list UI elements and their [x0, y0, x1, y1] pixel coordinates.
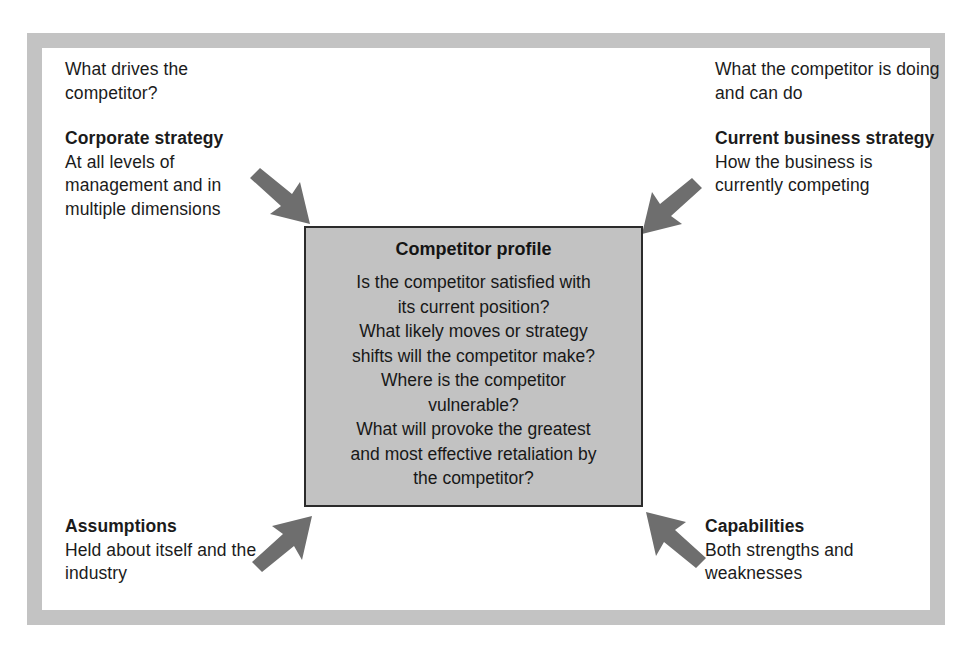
quadrant-bottom-right-detail: Both strengths and weaknesses — [705, 539, 935, 586]
profile-question-line: What will provoke the greatest — [316, 417, 631, 442]
profile-question-line: Is the competitor satisfied with — [316, 270, 631, 295]
quadrant-top-right: What the competitor is doing and can do … — [715, 58, 940, 198]
quadrant-top-left-lead: What drives the competitor? — [65, 58, 280, 105]
profile-question-line: What likely moves or strategy — [316, 319, 631, 344]
quadrant-top-right-detail: How the business is currently competing — [715, 151, 940, 198]
quadrant-top-right-heading: Current business strategy — [715, 127, 940, 151]
competitor-profile-questions: Is the competitor satisfied with its cur… — [316, 270, 631, 491]
profile-question-line: shifts will the competitor make? — [316, 344, 631, 369]
quadrant-bottom-right-heading: Capabilities — [705, 515, 935, 539]
quadrant-bottom-left: Assumptions Held about itself and the in… — [65, 515, 295, 586]
quadrant-bottom-left-detail: Held about itself and the industry — [65, 539, 295, 586]
profile-question-line: its current position? — [316, 295, 631, 320]
quadrant-top-left-detail: At all levels of management and in multi… — [65, 151, 280, 222]
competitor-analysis-diagram: What drives the competitor? Corporate st… — [0, 0, 973, 661]
profile-question-line: Where is the competitor — [316, 368, 631, 393]
quadrant-top-left: What drives the competitor? Corporate st… — [65, 58, 280, 221]
profile-question-line: the competitor? — [316, 466, 631, 491]
competitor-profile-box: Competitor profile Is the competitor sat… — [304, 226, 643, 507]
quadrant-bottom-left-heading: Assumptions — [65, 515, 295, 539]
profile-question-line: and most effective retaliation by — [316, 442, 631, 467]
competitor-profile-title: Competitor profile — [316, 237, 631, 261]
quadrant-top-right-lead: What the competitor is doing and can do — [715, 58, 940, 105]
profile-question-line: vulnerable? — [316, 393, 631, 418]
quadrant-top-left-heading: Corporate strategy — [65, 127, 280, 151]
quadrant-bottom-right: Capabilities Both strengths and weakness… — [705, 515, 935, 586]
